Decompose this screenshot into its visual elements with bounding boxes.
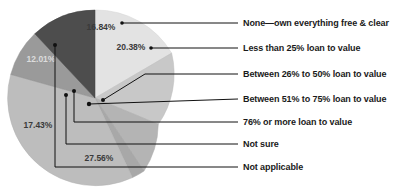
pie-label-17-43: 17.43% (24, 120, 53, 130)
legend-item-none-free-clear[interactable]: None—own everything free & clear (243, 18, 389, 28)
pie-label-27-56: 27.56% (85, 153, 114, 163)
leader-dot-76-or-more (72, 89, 76, 93)
legend-item-between-26-50[interactable]: Between 26% to 50% loan to value (243, 69, 386, 79)
legend-item-less-than-25[interactable]: Less than 25% loan to value (243, 43, 360, 53)
legend-item-not-sure[interactable]: Not sure (243, 139, 279, 149)
legend-item-not-applicable[interactable]: Not applicable (243, 162, 303, 172)
pie-chart-figure: 16.84% 20.38% 27.56% 17.43% 12.01% (0, 0, 408, 196)
leader-dot-between-26-50 (101, 98, 105, 102)
pie-label-16-84: 16.84% (87, 22, 116, 32)
leader-dot-none-free-clear (120, 21, 124, 25)
pie-label-20-38: 20.38% (117, 42, 146, 52)
pie-label-12-01: 12.01% (27, 54, 56, 64)
legend-item-between-51-75[interactable]: Between 51% to 75% loan to value (243, 94, 386, 104)
leader-dot-between-51-75 (87, 102, 91, 106)
leader-dot-not-sure (64, 93, 68, 97)
leader-dot-not-applicable (53, 43, 57, 47)
leader-dot-less-than-25 (149, 46, 153, 50)
legend-item-76-or-more[interactable]: 76% or more loan to value (243, 117, 352, 127)
